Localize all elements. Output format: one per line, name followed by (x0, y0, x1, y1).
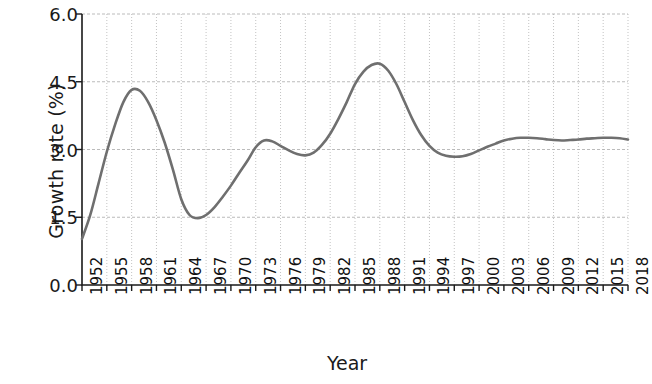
x-tick-label: 1994 (435, 257, 453, 295)
x-tick-label: 1961 (162, 257, 180, 295)
x-tick-label: 2000 (485, 257, 503, 295)
x-tick-label: 2003 (510, 257, 528, 295)
x-tick-label: 1952 (88, 257, 106, 295)
x-tick-label: 1955 (113, 257, 131, 295)
x-tick-label: 1976 (287, 257, 305, 295)
x-tick-label: 1991 (411, 257, 429, 295)
x-tick-label: 2018 (634, 257, 652, 295)
x-tick-label: 2012 (584, 257, 602, 295)
x-axis-title-text: Year (279, 352, 367, 374)
x-tick-label: 2006 (535, 257, 553, 295)
x-tick-label: 1967 (212, 257, 230, 295)
x-tick-label: 1982 (336, 257, 354, 295)
x-tick-label: 1973 (262, 257, 280, 295)
x-tick-label: 1979 (311, 257, 329, 295)
x-tick-label: 1958 (138, 257, 156, 295)
x-tick-label: 1985 (361, 257, 379, 295)
x-tick-label: 1964 (187, 257, 205, 295)
x-tick-label: 1988 (386, 257, 404, 295)
x-tick-label: 2015 (609, 257, 627, 295)
x-axis-title: Year (0, 352, 646, 374)
x-tick-label: 1997 (460, 257, 478, 295)
x-tick-label: 1970 (237, 257, 255, 295)
x-tick-label: 2009 (560, 257, 578, 295)
